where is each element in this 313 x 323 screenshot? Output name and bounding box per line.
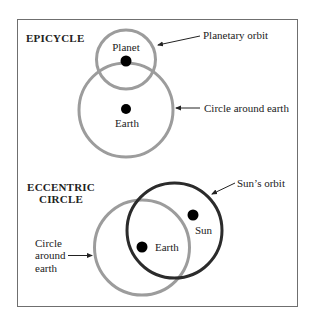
suns-orbit-label: Sun’s orbit xyxy=(237,177,285,189)
suns-orbit-arrow xyxy=(212,183,235,194)
eccentric-circle-label-line1: Circle xyxy=(35,237,62,249)
planet-label: Planet xyxy=(112,41,140,53)
sun-label: Sun xyxy=(195,224,213,236)
planetary-orbit-arrow xyxy=(158,36,200,45)
diagram-canvas: EPICYCLE Planet Earth Planetary orbit Ci… xyxy=(0,0,313,323)
diagram-frame xyxy=(18,20,298,307)
planet-dot xyxy=(121,56,132,67)
epicycle-title: EPICYCLE xyxy=(26,32,84,44)
eccentric-earth-dot xyxy=(137,242,148,253)
earth-dot xyxy=(121,104,131,114)
circle-around-earth-label: Circle around earth xyxy=(204,102,289,114)
eccentric-panel: ECCENTRIC CIRCLE Sun Earth Sun’s orbit C… xyxy=(27,177,285,295)
eccentric-earth-label: Earth xyxy=(155,241,179,253)
earth-label: Earth xyxy=(115,117,139,129)
planetary-orbit-label: Planetary orbit xyxy=(203,29,268,41)
epicycle-panel: EPICYCLE Planet Earth Planetary orbit Ci… xyxy=(26,29,289,157)
eccentric-circle-label-line3: earth xyxy=(35,262,57,274)
eccentric-title-line1: ECCENTRIC xyxy=(27,181,95,193)
sun-dot xyxy=(188,210,199,221)
eccentric-title-line2: CIRCLE xyxy=(39,193,83,205)
eccentric-circle-label-line2: around xyxy=(35,249,66,261)
